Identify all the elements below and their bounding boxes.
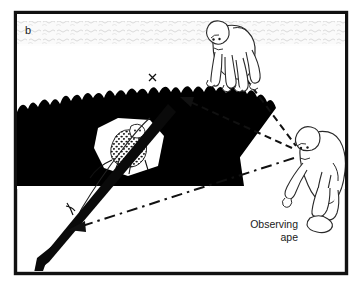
figure-illustration: b Observing ape [0, 0, 361, 288]
figure-panel-b: b Observing ape [0, 0, 361, 288]
observing-ape-label-line2: ape [280, 231, 298, 243]
panel-label-b: b [25, 24, 31, 36]
sky-cloud-band [17, 14, 345, 50]
observing-ape-label-line1: Observing [250, 218, 298, 230]
